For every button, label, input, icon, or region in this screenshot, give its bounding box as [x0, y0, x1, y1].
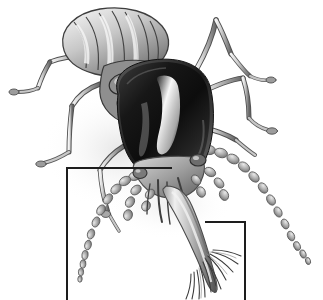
- figure-canvas: Nasute termite soldier: [0, 0, 323, 300]
- termite-soldier-illustration: [0, 0, 323, 300]
- eye-spot: [190, 154, 206, 166]
